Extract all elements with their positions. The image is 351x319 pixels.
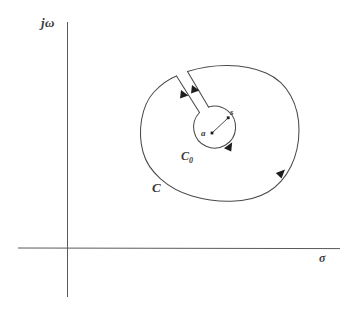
axis-label-sigma: σ: [319, 252, 325, 264]
outer-contour-C: [140, 65, 299, 201]
figure-canvas: [0, 0, 351, 319]
horizontal-axis-line: [18, 248, 340, 249]
contour-label-C0: C0: [181, 150, 193, 165]
point-label-s: s: [230, 108, 234, 117]
point-a-marker: [211, 132, 214, 135]
slot-wall-upper: [188, 72, 209, 108]
axes-group: [18, 22, 340, 297]
contour-label-C0-main: C: [181, 149, 189, 163]
slot-arrow-lower-icon: [180, 90, 188, 99]
radius-line-group: [212, 118, 228, 133]
contour-label-C: C: [152, 181, 161, 194]
slot-wall-lower: [177, 76, 200, 113]
contour-integration-figure: jω σ C C0 a s: [0, 0, 351, 319]
axis-label-jomega: jω: [41, 16, 55, 29]
contour-label-C0-subscript: 0: [189, 156, 193, 165]
outer-contour-arrow-icon: [276, 170, 285, 179]
radius-a-to-s-line: [212, 118, 228, 133]
outer-arrowhead-group: [276, 170, 285, 179]
point-label-a: a: [201, 129, 206, 138]
outer-contour-path: [140, 65, 299, 201]
